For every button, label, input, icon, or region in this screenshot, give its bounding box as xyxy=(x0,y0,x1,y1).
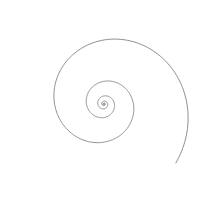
spiral-diagram xyxy=(0,0,209,207)
spiral-curve xyxy=(54,39,188,163)
